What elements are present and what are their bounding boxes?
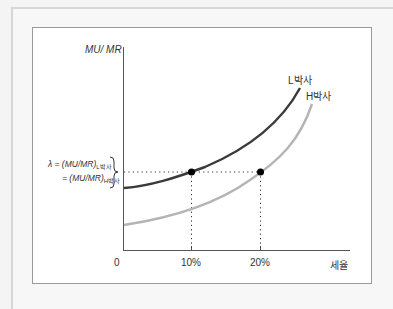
x-axis-label: 세율 [330,257,348,272]
origin-label: 0 [114,257,120,268]
lambda-label-line1: λ = (MU/MR)L박사 [48,159,112,171]
lambda-sub-1: L박사 [96,164,111,170]
lambda-expr-2: = (MU/MR) [62,173,104,183]
point-l-10 [188,169,195,176]
curve-l [124,88,300,188]
lambda-expr-1: λ = (MU/MR) [48,159,96,169]
curve-label-l: L박사 [288,72,312,87]
lambda-sub-2: H박사 [104,178,120,184]
tick-label-10: 10% [181,257,201,268]
lambda-label-line2: = (MU/MR)H박사 [62,173,120,185]
point-h-20 [257,169,264,176]
curve-h [124,104,312,225]
tick-label-20: 20% [250,257,270,268]
curve-label-h: H박사 [306,88,331,103]
y-axis-label: MU/ MR [85,44,122,55]
